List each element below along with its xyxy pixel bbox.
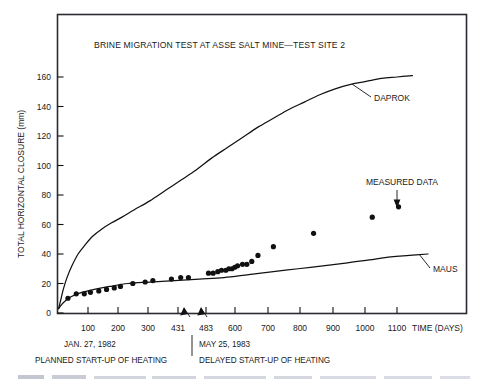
series-label-daprok: DAPROK [374, 93, 410, 103]
data-point [74, 291, 79, 296]
plot-frame [58, 15, 467, 314]
y-tick-label: 60 [42, 220, 52, 230]
x-tick-label: 483 [199, 323, 213, 333]
y-tick-label: 160 [37, 72, 51, 82]
data-point [88, 290, 93, 295]
page-caption-sliver [18, 375, 470, 379]
data-point [249, 259, 254, 264]
chart-canvas: BRINE MIGRATION TEST AT ASSE SALT MINE—T… [0, 0, 483, 380]
planned-startup-text: PLANNED START-UP OF HEATING [35, 356, 167, 365]
x-tick-label: 1100 [388, 323, 407, 333]
series-label-maus: MAUS [433, 264, 458, 274]
data-point [186, 275, 191, 280]
x-tick-label: 600 [228, 323, 242, 333]
y-axis-tick-labels: 0 20 40 60 80 100 120 140 160 [37, 72, 51, 318]
chart-title: BRINE MIGRATION TEST AT ASSE SALT MINE—T… [94, 40, 345, 50]
y-tick-label: 40 [42, 249, 52, 259]
data-point [112, 285, 117, 290]
x-tick-label: 200 [111, 323, 125, 333]
planned-startup-date: JAN. 27, 1982 [64, 340, 116, 349]
maus-leader-line [419, 254, 430, 268]
figure-container: BRINE MIGRATION TEST AT ASSE SALT MINE—T… [0, 0, 483, 380]
data-point [130, 281, 135, 286]
x-axis-title: TIME (DAYS) [412, 323, 463, 333]
y-tick-label: 100 [37, 161, 51, 171]
data-point [235, 263, 240, 268]
data-point [169, 276, 174, 281]
series-label-measured-data: MEASURED DATA [366, 177, 438, 187]
data-point [255, 253, 260, 258]
data-point [104, 287, 109, 292]
y-tick-label: 80 [42, 190, 52, 200]
x-tick-label: 800 [293, 323, 307, 333]
delayed-startup-date: MAY 25, 1983 [199, 340, 251, 349]
y-tick-label: 120 [37, 131, 51, 141]
x-tick-label: 100 [81, 323, 95, 333]
data-point [370, 215, 375, 220]
y-tick-label: 20 [42, 279, 52, 289]
data-point [143, 279, 148, 284]
y-tick-label: 140 [37, 102, 51, 112]
x-tick-label: 431 [171, 323, 185, 333]
y-axis-title: TOTAL HORIZONTAL CLOSURE (mm) [16, 110, 26, 258]
data-point [211, 271, 216, 276]
x-axis-ticks [88, 307, 397, 313]
data-point [271, 244, 276, 249]
x-tick-label: 300 [141, 323, 155, 333]
y-axis-ticks [58, 77, 64, 313]
data-point [65, 296, 70, 301]
series-points-measured-data [65, 204, 401, 301]
data-point [150, 278, 155, 283]
data-point [96, 288, 101, 293]
data-point [244, 262, 249, 267]
x-tick-label: 700 [261, 323, 275, 333]
data-point [82, 291, 87, 296]
data-point [118, 284, 123, 289]
data-point [178, 275, 183, 280]
y-tick-label: 0 [46, 308, 51, 318]
data-point [311, 231, 316, 236]
x-tick-label: 1000 [356, 323, 375, 333]
delayed-startup-text: DELAYED START-UP OF HEATING [199, 356, 330, 365]
x-tick-label: 900 [326, 323, 340, 333]
series-line-daprok [59, 76, 413, 309]
daprok-leader-line [352, 84, 371, 97]
x-axis-tick-labels: 100 200 300 431 483 600 700 800 900 1000… [81, 323, 407, 333]
data-point [206, 271, 211, 276]
